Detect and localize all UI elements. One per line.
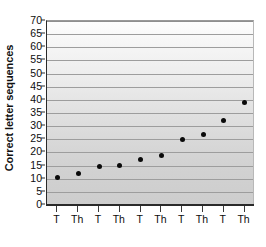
y-axis-tick-mark xyxy=(41,59,45,60)
data-point xyxy=(138,157,143,162)
data-point xyxy=(159,153,164,158)
x-axis-tick-label: T xyxy=(95,214,101,226)
x-axis-tick-mark xyxy=(202,206,203,212)
y-axis-tick-mark xyxy=(41,72,45,73)
gridline xyxy=(47,34,253,35)
gridline xyxy=(47,139,253,140)
y-axis-tick-mark xyxy=(41,85,45,86)
gridline xyxy=(47,152,253,153)
x-axis-tick-mark xyxy=(119,206,120,212)
gridline xyxy=(47,100,253,101)
x-axis-tick-mark xyxy=(98,206,99,212)
x-axis-tick-labels: TThTThTThTThTTh xyxy=(46,214,254,230)
x-axis-tick-label: Th xyxy=(71,214,83,226)
x-axis-tick-mark xyxy=(181,206,182,212)
y-axis-tick-mark xyxy=(41,20,45,21)
y-axis-tick-mark xyxy=(41,190,45,191)
x-axis-tick-label: T xyxy=(136,214,142,226)
data-point xyxy=(117,163,122,168)
data-point xyxy=(180,137,185,142)
y-axis-tick-mark xyxy=(41,164,45,165)
paper-margin xyxy=(0,233,266,247)
gridline xyxy=(47,21,253,22)
data-point xyxy=(76,171,81,176)
x-axis-tick-label: Th xyxy=(154,214,166,226)
data-point xyxy=(242,100,247,105)
y-axis-tick-mark xyxy=(41,204,45,205)
y-axis-tick-mark xyxy=(41,33,45,34)
x-axis-tick-label: Th xyxy=(237,214,249,226)
y-axis-tick-mark xyxy=(41,151,45,152)
x-axis-tick-mark xyxy=(244,206,245,212)
gridline xyxy=(47,74,253,75)
scatter-chart-figure: Correct letter sequences 051015202530354… xyxy=(0,0,266,247)
y-axis-title: Correct letter sequences xyxy=(0,0,18,215)
gridline xyxy=(47,192,253,193)
gridline xyxy=(47,47,253,48)
gridline xyxy=(47,179,253,180)
x-axis-tick-mark xyxy=(56,206,57,212)
x-axis-tick-mark xyxy=(140,206,141,212)
y-axis-title-text: Correct letter sequences xyxy=(3,44,15,171)
gridline xyxy=(47,87,253,88)
gridline xyxy=(47,60,253,61)
x-axis-tick-mark xyxy=(160,206,161,212)
gridline xyxy=(47,166,253,167)
data-point xyxy=(55,175,60,180)
y-axis-tick-mark xyxy=(41,177,45,178)
plot-area xyxy=(46,20,254,204)
y-axis-tick-mark xyxy=(41,112,45,113)
data-point xyxy=(221,118,226,123)
gridline xyxy=(47,126,253,127)
y-axis-tick-labels: 0510152025303540455055606570 xyxy=(17,0,45,247)
x-axis-tick-label: Th xyxy=(196,214,208,226)
data-point xyxy=(201,132,206,137)
y-axis-tick-mark xyxy=(41,98,45,99)
x-axis-tick-label: T xyxy=(53,214,59,226)
x-axis-tick-mark xyxy=(77,206,78,212)
gridline xyxy=(47,113,253,114)
y-axis-tick-mark xyxy=(41,125,45,126)
x-axis-tick-label: T xyxy=(220,214,226,226)
x-axis-tick-mark xyxy=(223,206,224,212)
x-axis-tick-label: T xyxy=(178,214,184,226)
x-axis-tick-label: Th xyxy=(113,214,125,226)
data-point xyxy=(97,164,102,169)
y-axis-tick-mark xyxy=(41,138,45,139)
y-axis-tick-mark xyxy=(41,46,45,47)
